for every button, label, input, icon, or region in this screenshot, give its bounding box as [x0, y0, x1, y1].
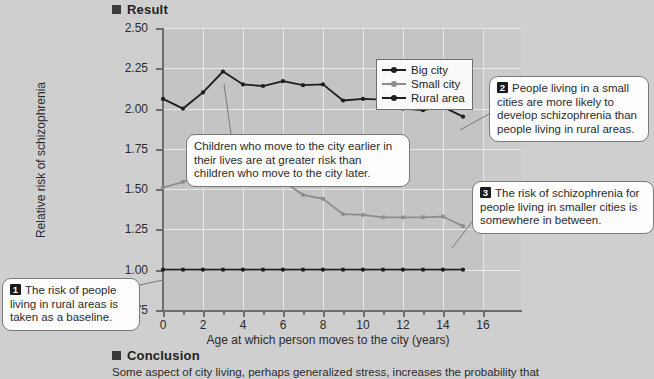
data-point-rural-area — [261, 268, 265, 272]
data-point-big-city — [361, 97, 365, 101]
data-point-big-city — [161, 97, 165, 101]
data-point-rural-area — [441, 268, 445, 272]
data-point-rural-area — [421, 268, 425, 272]
data-point-big-city — [461, 115, 465, 119]
callout-text-2: People living in a small cities are more… — [497, 82, 637, 135]
schizophrenia-risk-chart: 0.751.001.251.501.752.002.252.5002468101… — [0, 18, 645, 348]
callout-text-1: The risk of people living in rural areas… — [10, 284, 118, 323]
data-point-rural-area — [221, 268, 225, 272]
data-point-small-city — [181, 180, 185, 184]
data-point-big-city — [281, 79, 285, 83]
legend-label-big-city: Big city — [411, 64, 448, 76]
legend-label-rural-area: Rural area — [411, 92, 465, 104]
data-point-small-city — [401, 215, 405, 219]
bullet-square-icon — [112, 351, 121, 360]
data-point-rural-area — [381, 268, 385, 272]
conclusion-body-text: Some aspect of city living, perhaps gene… — [112, 366, 582, 379]
legend-label-small-city: Small city — [411, 78, 460, 90]
legend-marker-big-city — [382, 65, 406, 75]
data-point-big-city — [181, 106, 185, 110]
data-point-rural-area — [321, 268, 325, 272]
legend-item-big-city: Big city — [382, 63, 465, 77]
conclusion-section-heading: Conclusion — [112, 348, 200, 363]
data-point-rural-area — [401, 268, 405, 272]
data-point-small-city — [321, 197, 325, 201]
data-point-small-city — [441, 214, 445, 218]
data-point-big-city — [201, 90, 205, 94]
callout-text-3: The risk of schizophrenia for people liv… — [480, 187, 639, 226]
conclusion-heading-label: Conclusion — [127, 348, 200, 363]
callout-number-3: 3 — [480, 187, 491, 198]
data-point-small-city — [461, 224, 465, 228]
callout-text-center: Children who move to the city earlier in… — [194, 140, 392, 179]
result-section-heading: Result — [112, 2, 168, 17]
legend-item-small-city: Small city — [382, 77, 465, 91]
data-point-small-city — [161, 185, 165, 189]
callout-box-2: 2People living in a small cities are mor… — [489, 76, 649, 142]
data-point-rural-area — [281, 268, 285, 272]
data-point-rural-area — [361, 268, 365, 272]
data-point-rural-area — [201, 268, 205, 272]
callout-number-2: 2 — [497, 82, 508, 93]
callout-number-1: 1 — [10, 284, 21, 295]
data-point-small-city — [341, 212, 345, 216]
bullet-square-icon — [112, 5, 121, 14]
data-point-rural-area — [241, 268, 245, 272]
legend-marker-small-city — [382, 79, 406, 89]
data-point-rural-area — [341, 268, 345, 272]
data-point-small-city — [361, 213, 365, 217]
data-point-big-city — [341, 98, 345, 102]
data-point-big-city — [321, 82, 325, 86]
data-point-rural-area — [301, 268, 305, 272]
result-heading-label: Result — [127, 2, 168, 17]
callout-box-1: 1The risk of people living in rural area… — [2, 278, 140, 331]
data-point-rural-area — [181, 268, 185, 272]
callout-box-3: 3The risk of schizophrenia for people li… — [472, 181, 654, 234]
data-point-big-city — [261, 84, 265, 88]
data-point-big-city — [221, 69, 225, 73]
data-point-small-city — [381, 215, 385, 219]
data-point-small-city — [301, 193, 305, 197]
data-point-big-city — [241, 82, 245, 86]
legend-item-rural-area: Rural area — [382, 91, 465, 105]
chart-legend: Big city Small city Rural area — [376, 59, 473, 110]
data-point-small-city — [421, 215, 425, 219]
legend-marker-rural-area — [382, 93, 406, 103]
data-point-rural-area — [461, 268, 465, 272]
callout-box-center: Children who move to the city earlier in… — [186, 134, 410, 187]
data-point-rural-area — [161, 268, 165, 272]
data-point-big-city — [301, 83, 305, 87]
